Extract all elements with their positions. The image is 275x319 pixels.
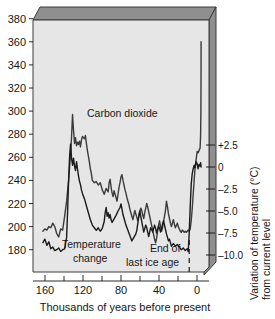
right-axis-title-line1: Variation of temperature (°C) <box>248 166 260 300</box>
carbon-dioxide-annotation: Carbon dioxide <box>87 107 158 119</box>
left-axis-ticks <box>29 19 33 250</box>
y-right-tick-minus7-5: –7.5 <box>218 228 238 239</box>
x-tick-40: 40 <box>153 284 165 296</box>
y-left-tick-180: 180 <box>8 244 26 256</box>
y-right-tick-0: 0 <box>218 162 224 173</box>
y-left-tick-360: 360 <box>8 36 26 48</box>
x-tick-160: 160 <box>36 284 54 296</box>
plot-box-top-face <box>33 7 216 20</box>
y-left-tick-240: 240 <box>8 174 26 186</box>
left-axis-tick-labels: 180 200 220 240 260 280 300 320 340 360 … <box>8 13 26 256</box>
x-tick-0: 0 <box>194 284 200 296</box>
temperature-change-annotation-line2: change <box>73 252 108 264</box>
chart-container: 180 200 220 240 260 280 300 320 340 360 … <box>0 0 275 319</box>
y-left-tick-260: 260 <box>8 151 26 163</box>
x-tick-80: 80 <box>115 284 127 296</box>
x-axis <box>33 275 209 281</box>
y-right-tick-minus10-0: –10.0 <box>218 250 243 261</box>
y-left-tick-220: 220 <box>8 198 26 210</box>
y-right-tick-minus2-5: –2.5 <box>218 184 238 195</box>
y-left-tick-280: 280 <box>8 128 26 140</box>
right-axis-title-line2: from current level <box>260 219 272 300</box>
x-tick-120: 120 <box>74 284 92 296</box>
ice-core-chart: 180 200 220 240 260 280 300 320 340 360 … <box>0 0 275 319</box>
end-of-last-ice-age-annotation-line2: last ice age <box>126 256 179 268</box>
y-right-tick-minus5-0: –5.0 <box>218 206 238 217</box>
x-axis-title: Thousands of years before present <box>40 301 211 313</box>
end-of-last-ice-age-annotation-line1: End of <box>150 242 180 254</box>
y-left-tick-340: 340 <box>8 59 26 71</box>
x-axis-tick-labels: 160 120 80 40 0 <box>36 284 200 296</box>
right-axis-title: Variation of temperature (°C) from curre… <box>248 164 272 300</box>
y-left-tick-320: 320 <box>8 82 26 94</box>
y-left-tick-380: 380 <box>8 13 26 25</box>
right-axis-tick-labels: +2.5 0 –2.5 –5.0 –7.5 –10.0 <box>218 140 243 261</box>
y-left-tick-200: 200 <box>8 221 26 233</box>
y-right-tick-plus2-5: +2.5 <box>218 140 238 151</box>
temperature-change-annotation-line1: Temperature <box>62 238 121 250</box>
y-left-tick-300: 300 <box>8 105 26 117</box>
